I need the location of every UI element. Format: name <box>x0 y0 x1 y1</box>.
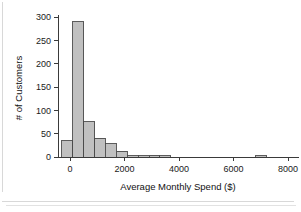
bars-group <box>62 22 266 157</box>
x-tick-label: 4000 <box>169 164 189 174</box>
y-tick-label: 200 <box>36 59 51 69</box>
x-tick-label: 2000 <box>114 164 134 174</box>
histogram-bar <box>105 144 116 157</box>
x-tick-label: 0 <box>67 164 72 174</box>
y-tick-label: 50 <box>41 129 51 139</box>
histogram-bar <box>84 122 95 157</box>
y-tick-label: 250 <box>36 36 51 46</box>
histogram-figure: 02000400060008000 050100150200250300 Ave… <box>0 0 301 212</box>
y-axis-label: # of Customers <box>13 56 24 121</box>
x-axis-label: Average Monthly Spend ($) <box>120 181 235 192</box>
y-tick-label: 150 <box>36 82 51 92</box>
x-tick-label: 6000 <box>223 164 243 174</box>
x-tick-label: 8000 <box>278 164 298 174</box>
histogram-bar <box>116 151 127 157</box>
y-tick-label: 300 <box>36 12 51 22</box>
y-axis-ticks: 050100150200250300 <box>36 12 58 162</box>
histogram-bar <box>62 141 73 157</box>
y-tick-label: 0 <box>46 152 51 162</box>
histogram-bar <box>95 138 106 157</box>
x-axis-ticks: 02000400060008000 <box>67 157 298 174</box>
y-tick-label: 100 <box>36 106 51 116</box>
plot-area: 02000400060008000 050100150200250300 Ave… <box>0 0 301 212</box>
histogram-bar <box>73 22 84 157</box>
